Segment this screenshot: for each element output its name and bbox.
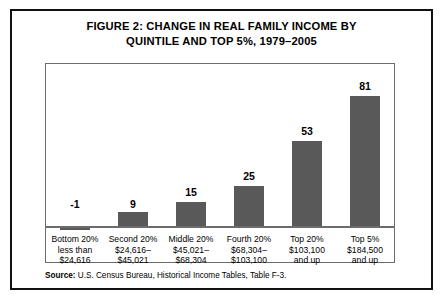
x-axis-tick-label: Fourth 20% $68,304– $103,100 bbox=[220, 234, 278, 262]
tick-label-line-3: $103,100 bbox=[221, 255, 277, 266]
tick-label-line-2: $184,500 bbox=[337, 245, 393, 256]
tick-label-line-2: $45,021– bbox=[163, 245, 219, 256]
tick-label-line-3: and up bbox=[337, 255, 393, 266]
x-axis-tick-labels: Bottom 20% less than $24,616 Second 20% … bbox=[46, 228, 394, 262]
tick-label-line-3: $45,021 bbox=[105, 255, 161, 266]
figure-title-line-2: QUINTILE AND TOP 5%, 1979–2005 bbox=[12, 34, 431, 49]
chart-panel: -1 9 15 25 53 bbox=[45, 63, 395, 263]
tick-label-line-2: $103,100 bbox=[279, 245, 335, 256]
bar-value-label: 9 bbox=[130, 198, 136, 210]
bar-column: 53 bbox=[278, 64, 336, 226]
bar-column: 81 bbox=[336, 64, 394, 226]
bar[interactable] bbox=[176, 202, 206, 226]
bar[interactable] bbox=[118, 212, 148, 226]
source-note: Source: U.S. Census Bureau, Historical I… bbox=[45, 270, 286, 281]
tick-label-line-3: and up bbox=[279, 255, 335, 266]
tick-label-line-3: $24,616 bbox=[47, 255, 103, 266]
bar-column: -1 bbox=[46, 64, 104, 226]
figure-frame: FIGURE 2: CHANGE IN REAL FAMILY INCOME B… bbox=[10, 9, 433, 290]
x-axis-tick-label: Second 20% $24,616– $45,021 bbox=[104, 234, 162, 262]
source-text: U.S. Census Bureau, Historical Income Ta… bbox=[75, 271, 286, 280]
x-axis-tick-label: Bottom 20% less than $24,616 bbox=[46, 234, 104, 262]
plot-area: -1 9 15 25 53 bbox=[46, 64, 394, 226]
tick-label-line-3: $68,304 bbox=[163, 255, 219, 266]
tick-label-line-2: $24,616– bbox=[105, 245, 161, 256]
tick-label-line-1: Top 5% bbox=[337, 234, 393, 245]
x-axis-tick-label: Middle 20% $45,021– $68,304 bbox=[162, 234, 220, 262]
tick-label-line-1: Middle 20% bbox=[163, 234, 219, 245]
tick-label-line-1: Bottom 20% bbox=[47, 234, 103, 245]
figure-title-line-1: FIGURE 2: CHANGE IN REAL FAMILY INCOME B… bbox=[12, 19, 431, 34]
bar-column: 15 bbox=[162, 64, 220, 226]
tick-label-line-2: less than bbox=[47, 245, 103, 256]
figure-title: FIGURE 2: CHANGE IN REAL FAMILY INCOME B… bbox=[12, 19, 431, 49]
x-axis-tick-label: Top 20% $103,100 and up bbox=[278, 234, 336, 262]
bar[interactable] bbox=[292, 141, 322, 226]
bar-column: 25 bbox=[220, 64, 278, 226]
tick-label-line-2: $68,304– bbox=[221, 245, 277, 256]
bar-value-label: 25 bbox=[243, 170, 255, 182]
source-label: Source: bbox=[45, 271, 75, 280]
bar-value-label: 15 bbox=[185, 186, 197, 198]
bar-value-label: 81 bbox=[359, 80, 371, 92]
bar-value-label: 53 bbox=[301, 125, 313, 137]
bar[interactable] bbox=[234, 186, 264, 226]
bar-column: 9 bbox=[104, 64, 162, 226]
tick-label-line-1: Second 20% bbox=[105, 234, 161, 245]
bar-value-label: -1 bbox=[70, 198, 79, 210]
bar-series: -1 9 15 25 53 bbox=[46, 64, 394, 226]
tick-label-line-1: Fourth 20% bbox=[221, 234, 277, 245]
bar[interactable] bbox=[350, 96, 380, 226]
tick-label-line-1: Top 20% bbox=[279, 234, 335, 245]
x-axis-tick-label: Top 5% $184,500 and up bbox=[336, 234, 394, 262]
